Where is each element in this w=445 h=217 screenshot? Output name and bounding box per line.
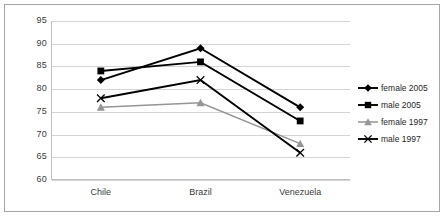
x-axis-labels: ChileBrazilVenezuela: [51, 185, 350, 201]
legend-label: male 2005: [381, 100, 421, 110]
gridline-60: [52, 180, 350, 181]
y-tick-label: 95: [13, 16, 47, 25]
x-tick-label-chile: Chile: [91, 187, 112, 197]
y-tick-label: 90: [13, 39, 47, 48]
legend-marker-triangle-icon: [357, 115, 379, 129]
chart-screenshot: 9590858075706560 ChileBrazilVenezuela fe…: [0, 0, 445, 217]
y-tick-label: 60: [13, 175, 47, 184]
chart-frame: 9590858075706560 ChileBrazilVenezuela fe…: [4, 4, 440, 212]
x-tick-label-venezuela: Venezuela: [279, 187, 321, 197]
series-male-1997: [97, 76, 304, 156]
y-tick-label: 70: [13, 130, 47, 139]
y-tick-label: 65: [13, 152, 47, 161]
legend-label: male 1997: [381, 134, 421, 144]
legend-label: female 1997: [381, 117, 428, 127]
legend-item-male-2005[interactable]: male 2005: [357, 96, 443, 113]
legend-item-female-1997[interactable]: female 1997: [357, 113, 443, 130]
y-tick-label: 75: [13, 107, 47, 116]
y-tick-label: 85: [13, 61, 47, 70]
series-female-1997: [97, 99, 304, 147]
legend-label: female 2005: [381, 83, 428, 93]
series-layer: [51, 21, 350, 180]
x-tick-label-brazil: Brazil: [189, 187, 212, 197]
legend-item-female-2005[interactable]: female 2005: [357, 79, 443, 96]
legend-marker-x-icon: [357, 132, 379, 146]
legend-marker-square-icon: [357, 98, 379, 112]
legend: female 2005male 2005female 1997male 1997: [357, 79, 443, 147]
y-axis-labels: 9590858075706560: [9, 21, 47, 180]
legend-item-male-1997[interactable]: male 1997: [357, 130, 443, 147]
y-tick-label: 80: [13, 84, 47, 93]
legend-marker-diamond-icon: [357, 81, 379, 95]
